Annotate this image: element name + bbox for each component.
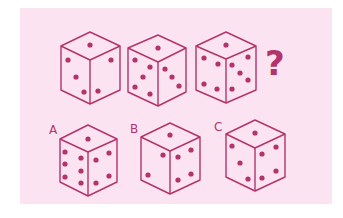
option-a-label[interactable]: A [49,123,57,137]
option-b-label[interactable]: B [130,122,138,136]
option-a-die [60,125,117,196]
dice-drawing [0,0,343,218]
option-c-label[interactable]: C [214,120,222,134]
question-mark: ? [265,46,285,80]
